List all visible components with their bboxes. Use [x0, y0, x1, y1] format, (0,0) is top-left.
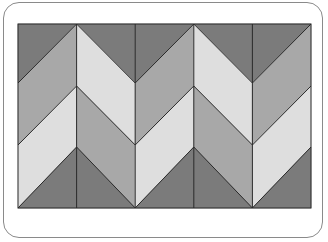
chevron-pattern	[0, 0, 328, 242]
